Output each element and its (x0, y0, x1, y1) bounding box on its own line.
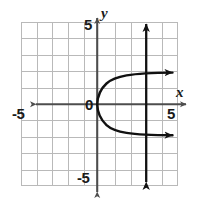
x-axis-tick-label-5: 5 (167, 106, 175, 121)
y-axis-tick-label-neg5: -5 (77, 170, 89, 185)
graph-figure: 5 -5 5 -5 0 y x (0, 0, 199, 202)
y-axis-name-label: y (101, 6, 108, 21)
x-axis-tick-label-neg5: -5 (12, 106, 24, 121)
y-axis-tick-label-5: 5 (84, 17, 92, 32)
x-axis-name-label: x (176, 85, 184, 100)
coordinate-plane (0, 0, 199, 202)
origin-label: 0 (85, 97, 93, 112)
